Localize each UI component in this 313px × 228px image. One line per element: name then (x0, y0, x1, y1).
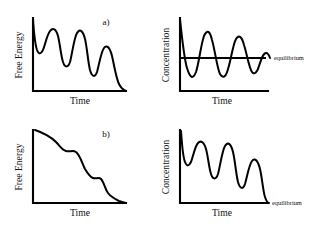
panel-b-free-energy-xlabel: Time (70, 207, 90, 218)
panel-b-free-energy-axes (33, 130, 126, 203)
panel-a-concentration-xlabel: Time (212, 95, 232, 106)
figure-container: Free Energy Time a) Concentration Time e… (0, 0, 313, 228)
panel-b-concentration-ylabel: Concentration (160, 140, 171, 195)
equilibrium-label-top: equilibrium (274, 54, 304, 61)
panel-a-letter: a) (102, 17, 109, 27)
panel-a-concentration-axes (180, 18, 268, 91)
figure-canvas: Free Energy Time a) Concentration Time e… (0, 0, 313, 228)
panel-a-free-energy-curve (33, 19, 126, 91)
panel-a-free-energy-xlabel: Time (70, 95, 90, 106)
panel-b-concentration: Concentration Time equilibrium (160, 130, 302, 218)
equilibrium-label-bottom: equilibrium (272, 199, 302, 206)
panel-b-concentration-axes (180, 130, 268, 203)
panel-b-concentration-curve (181, 131, 269, 203)
panel-a-free-energy-ylabel: Free Energy (13, 31, 24, 78)
panel-b-concentration-xlabel: Time (212, 207, 232, 218)
panel-a-free-energy: Free Energy Time a) (13, 17, 126, 106)
panel-b-free-energy: Free Energy Time b) (13, 129, 126, 218)
panel-b-free-energy-curve (35, 130, 126, 203)
panel-a-concentration: Concentration Time equilibrium (160, 18, 304, 106)
panel-b-letter: b) (102, 129, 110, 139)
panel-b-free-energy-ylabel: Free Energy (13, 143, 24, 190)
panel-a-concentration-curve (180, 19, 270, 77)
panel-a-concentration-ylabel: Concentration (160, 28, 171, 83)
